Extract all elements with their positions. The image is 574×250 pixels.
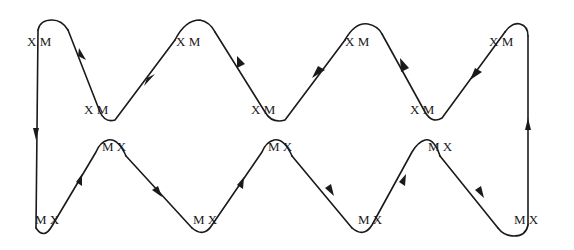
arrow-top-2-up: [237, 56, 245, 68]
label-top-trough-1: X M: [84, 103, 108, 116]
serpentine-loop-diagram: [0, 0, 574, 250]
label-top-peak-2: X M: [176, 35, 200, 48]
arrow-down-left-vertical: [33, 128, 39, 140]
label-bottom-peak-1: M X: [102, 140, 126, 153]
label-top-trough-3: X M: [410, 103, 434, 116]
arrow-up-right-vertical: [525, 118, 531, 130]
arrow-top-3-down: [470, 68, 482, 80]
label-bottom-trough-2: M X: [193, 213, 217, 226]
label-top-peak-4: X M: [489, 35, 513, 48]
label-top-peak-1: X M: [27, 35, 51, 48]
arrow-bottom-3-down: [475, 186, 484, 198]
label-top-peak-3: X M: [345, 35, 369, 48]
top-segment-3: [382, 32, 505, 120]
arrow-bottom-3-up: [399, 174, 406, 186]
label-top-trough-2: X M: [251, 103, 275, 116]
arrow-bottom-2-down: [325, 184, 334, 196]
label-bottom-trough-3: M X: [358, 213, 382, 226]
bottom-segment-3: [440, 156, 498, 228]
label-bottom-peak-2: M X: [268, 140, 292, 153]
arrow-bottom-1-down: [152, 186, 162, 197]
top-segment-2: [215, 32, 345, 121]
label-bottom-trough-4: M X: [514, 213, 538, 226]
bottom-segment-2: [292, 156, 352, 228]
label-bottom-peak-3: M X: [428, 140, 452, 153]
arrow-top-3-up: [400, 58, 409, 72]
top-peak-1-curve: [38, 20, 68, 30]
label-bottom-trough-1: M X: [35, 213, 59, 226]
